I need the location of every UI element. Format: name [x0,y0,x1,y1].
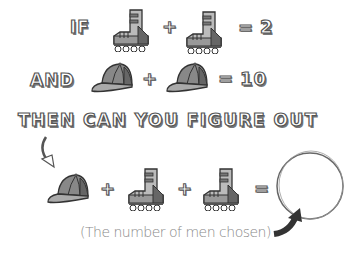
equals-sign: = [218,68,233,89]
rollerskate-icon [125,167,169,211]
cap-icon [46,172,90,206]
equals-sign: = [238,17,253,38]
plus-sign: + [142,68,157,89]
plus-sign: + [177,178,192,199]
plus-sign: + [162,16,177,37]
result-value: 2 [260,16,274,37]
caption-text: (The number of men chosen) [80,224,271,240]
question-text: THEN CAN YOU FIGURE OUT [18,110,318,130]
rollerskate-icon [200,167,244,211]
rollerskate-icon [110,8,154,52]
equals-sign: = [254,178,269,199]
curved-arrow-icon [38,135,62,171]
rollerskate-icon [183,10,227,54]
result-value: 10 [240,68,267,89]
and-label: AND [30,70,75,90]
curved-arrow-icon [272,206,306,238]
if-label: IF [70,17,90,37]
cap-icon [165,61,209,95]
cap-icon [90,61,134,95]
plus-sign: + [100,178,115,199]
